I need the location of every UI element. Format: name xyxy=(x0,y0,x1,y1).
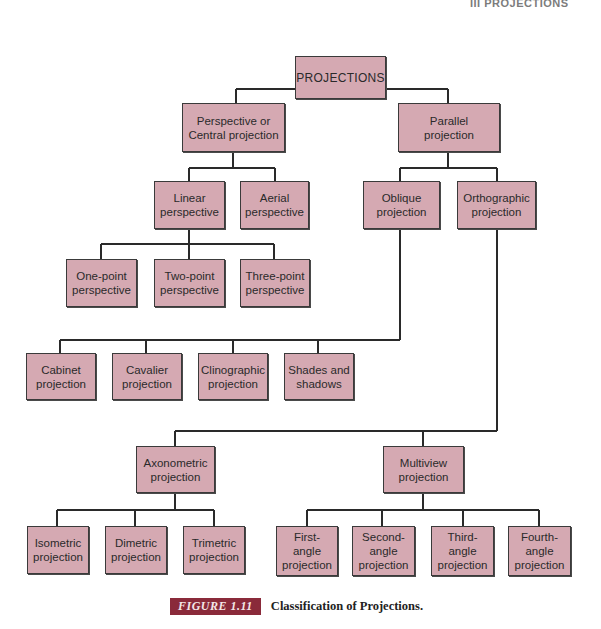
node-label: Trimetric projection xyxy=(189,536,239,564)
node-label: Parallel projection xyxy=(424,114,474,142)
node-orthographic-projection: Orthographic projection xyxy=(457,181,536,229)
node-label: First- angle projection xyxy=(282,530,332,572)
node-label: One-point perspective xyxy=(72,269,131,297)
node-two-point-perspective: Two-point perspective xyxy=(154,259,225,307)
node-second-angle-projection: Second- angle projection xyxy=(352,526,415,576)
figure-label: FIGURE 1.11 xyxy=(170,598,261,615)
node-trimetric-projection: Trimetric projection xyxy=(183,526,245,574)
node-label: Perspective or Central projection xyxy=(188,114,278,142)
node-aerial-perspective: Aerial perspective xyxy=(240,181,309,229)
node-label: Third- angle projection xyxy=(438,530,488,572)
node-label: Oblique projection xyxy=(377,191,427,219)
figure-caption: FIGURE 1.11 Classification of Projection… xyxy=(170,597,423,615)
node-cavalier-projection: Cavalier projection xyxy=(112,353,182,400)
node-first-angle-projection: First- angle projection xyxy=(276,526,338,576)
node-label: Clinographic projection xyxy=(201,363,265,391)
node-one-point-perspective: One-point perspective xyxy=(66,259,137,307)
node-oblique-projection: Oblique projection xyxy=(363,181,440,229)
node-label: Axonometric projection xyxy=(144,456,208,484)
node-perspective-central-projection: Perspective or Central projection xyxy=(182,103,285,152)
node-projections: PROJECTIONS xyxy=(295,56,386,99)
node-label: Orthographic projection xyxy=(463,191,529,219)
node-label: Two-point perspective xyxy=(160,269,219,297)
node-label: PROJECTIONS xyxy=(296,71,385,85)
node-axonometric-projection: Axonometric projection xyxy=(136,446,215,493)
node-parallel-projection: Parallel projection xyxy=(398,103,500,152)
node-label: Multiview projection xyxy=(399,456,449,484)
node-isometric-projection: Isometric projection xyxy=(27,526,89,574)
node-third-angle-projection: Third- angle projection xyxy=(431,526,494,576)
node-label: Linear perspective xyxy=(160,191,219,219)
node-linear-perspective: Linear perspective xyxy=(154,181,225,229)
node-multiview-projection: Multiview projection xyxy=(383,446,464,493)
node-cabinet-projection: Cabinet projection xyxy=(26,353,96,400)
node-label: Cavalier projection xyxy=(122,363,172,391)
node-label: Dimetric projection xyxy=(111,536,161,564)
node-clinographic-projection: Clinographic projection xyxy=(198,353,268,400)
node-three-point-perspective: Three-point perspective xyxy=(240,259,310,307)
node-label: Fourth- angle projection xyxy=(515,530,565,572)
node-shades-and-shadows: Shades and shadows xyxy=(284,353,354,400)
node-label: Cabinet projection xyxy=(36,363,86,391)
node-label: Isometric projection xyxy=(33,536,83,564)
node-label: Shades and shadows xyxy=(288,363,349,391)
figure-caption-text: Classification of Projections. xyxy=(271,599,423,614)
node-dimetric-projection: Dimetric projection xyxy=(105,526,167,574)
node-fourth-angle-projection: Fourth- angle projection xyxy=(508,526,571,576)
node-label: Second- angle projection xyxy=(359,530,409,572)
node-label: Three-point perspective xyxy=(246,269,305,297)
node-label: Aerial perspective xyxy=(245,191,304,219)
